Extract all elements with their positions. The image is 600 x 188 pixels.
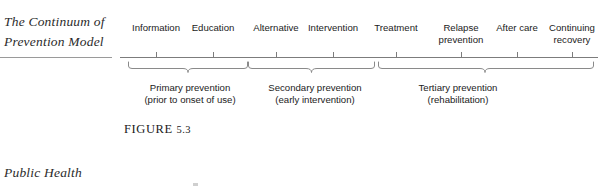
stage-label-treatment: Treatment (374, 22, 417, 34)
axis-tick-information (156, 52, 157, 58)
axis-tick-intervention (333, 52, 334, 58)
continuum-axis-line (120, 57, 598, 58)
axis-tick-alternative (276, 52, 277, 58)
stage-label-relapse-prevention: Relapse prevention (439, 22, 484, 45)
stage-label-information: Information (132, 22, 180, 34)
group-caption-row: Primary prevention (prior to onset of us… (120, 82, 600, 110)
group-caption-title: Tertiary prevention (419, 82, 498, 93)
group-caption-sub: (rehabilitation) (419, 94, 498, 106)
group-caption-tertiary-prevention: Tertiary prevention (rehabilitation) (419, 82, 498, 105)
figure-continuum-of-prevention: Information Education Alternative Interv… (120, 0, 600, 150)
stage-label-line-1: After care (496, 22, 538, 33)
stage-label-intervention: Intervention (308, 22, 358, 34)
stage-label-line-1: Alternative (253, 22, 298, 33)
group-caption-primary-prevention: Primary prevention (prior to onset of us… (144, 82, 235, 105)
brace-tertiary-prevention (378, 62, 594, 73)
axis-tick-continuing-recovery (572, 52, 573, 58)
stage-label-line-1: Relapse (443, 22, 478, 33)
figure-caption-number: 5.3 (176, 124, 190, 135)
footer-running-head-line-1: Public Health (4, 165, 82, 180)
figure-caption-label: FIGURE (124, 122, 173, 136)
running-head: The Continuum of Prevention Model (4, 12, 122, 52)
axis-tick-relapse-prevention (461, 52, 462, 58)
group-caption-sub: (early intervention) (268, 94, 361, 106)
running-head-line-1: The Continuum of (4, 14, 105, 29)
stage-label-after-care: After care (496, 22, 538, 34)
stage-label-line-1: Continuing (549, 22, 595, 33)
stage-label-continuing-recovery: Continuing recovery (549, 22, 595, 45)
stage-label-line-1: Information (132, 22, 180, 33)
figure-caption: FIGURE 5.3 (124, 122, 191, 137)
stage-label-line-1: Treatment (374, 22, 417, 33)
axis-tick-education (213, 52, 214, 58)
stage-label-row: Information Education Alternative Interv… (120, 22, 600, 52)
group-caption-title: Secondary prevention (268, 82, 361, 93)
stage-label-education: Education (192, 22, 235, 34)
axis-tick-treatment (396, 52, 397, 58)
brace-secondary-prevention (248, 62, 375, 73)
stage-label-line-2: prevention (439, 34, 484, 46)
group-caption-title: Primary prevention (150, 82, 231, 93)
page-artifact-mark (193, 183, 198, 186)
running-head-rule (0, 57, 112, 58)
stage-label-line-2: recovery (549, 34, 595, 46)
axis-tick-after-care (517, 52, 518, 58)
group-caption-sub: (prior to onset of use) (144, 94, 235, 106)
brace-primary-prevention (128, 62, 248, 73)
group-caption-secondary-prevention: Secondary prevention (early intervention… (268, 82, 361, 105)
running-head-line-2: Prevention Model (4, 32, 122, 52)
footer-running-head: Public Health (4, 164, 82, 182)
stage-label-line-1: Intervention (308, 22, 358, 33)
stage-label-alternative: Alternative (253, 22, 298, 34)
stage-label-line-1: Education (192, 22, 235, 33)
